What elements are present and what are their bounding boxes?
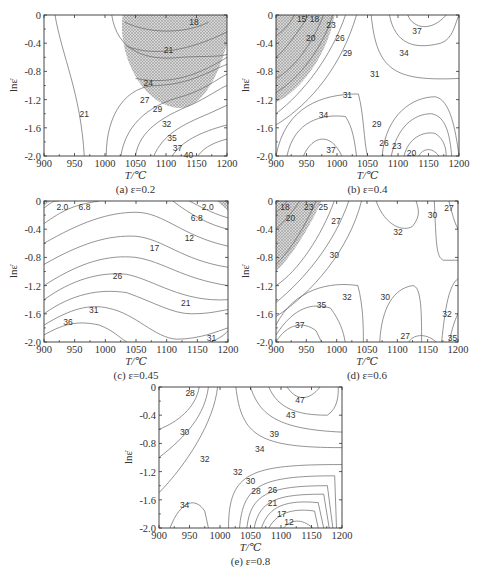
x-axis-label: T/℃ (357, 169, 379, 181)
contour-label: 25 (319, 202, 329, 212)
y-tick-label: -1.2 (139, 467, 156, 478)
y-tick-label: -0.4 (256, 38, 273, 49)
x-tick-label: 1100 (387, 344, 408, 355)
contour-line (303, 139, 341, 156)
x-axis-label: T/℃ (125, 169, 147, 181)
contour-label: 32 (162, 119, 172, 129)
contour-label: 30 (330, 250, 340, 260)
panel-c: 2.02.06.86.81217262131363190095010001050… (7, 196, 239, 382)
contour-line (276, 306, 345, 342)
y-tick-label: -1.6 (24, 123, 41, 134)
y-tick-label: -2.0 (24, 151, 41, 162)
contour-label: 21 (164, 45, 174, 55)
contour-label: 31 (89, 305, 99, 315)
contour-label: 26 (113, 271, 123, 281)
contour-label: 30 (246, 476, 256, 486)
contour-label: 37 (412, 26, 422, 36)
contour-label: 12 (185, 233, 195, 243)
x-tick-label: 950 (67, 158, 83, 169)
contour-label: 47 (295, 395, 305, 405)
contour-label: 35 (448, 333, 458, 343)
x-tick-label: 1000 (210, 530, 231, 541)
x-tick-label: 1200 (448, 344, 469, 355)
panel-caption: (e) ε=0.8 (231, 555, 271, 568)
contour-label: 20 (407, 148, 417, 158)
x-tick-label: 1150 (418, 158, 439, 169)
y-tick-label: -1.2 (256, 95, 273, 106)
x-tick-label: 1000 (95, 158, 116, 169)
y-tick-label: -1.6 (256, 123, 273, 134)
contour-label: 26 (335, 33, 345, 43)
y-tick-label: 0 (268, 10, 273, 21)
x-tick-label: 1200 (449, 158, 470, 169)
contour-label: 31 (207, 333, 217, 343)
x-tick-label: 1050 (126, 344, 147, 355)
y-tick-label: -1.6 (24, 309, 41, 320)
contour-label: 37 (326, 145, 336, 155)
x-tick-label: 1200 (332, 530, 353, 541)
contour-label: 32 (442, 309, 452, 319)
y-tick-label: 0 (268, 196, 273, 207)
x-tick-label: 1150 (187, 344, 208, 355)
contour-label: 20 (306, 33, 316, 43)
processing-map-figure: 2118212427293235374090095010001050110011… (0, 0, 478, 574)
contour-label: 15 (297, 14, 307, 24)
y-axis-label: lnε̇ (122, 450, 134, 464)
contour-label: 27 (331, 216, 341, 226)
y-axis-label: lnε̇ (239, 264, 251, 278)
y-tick-label: -1.2 (256, 281, 273, 292)
contour-label: 32 (393, 227, 403, 237)
contour-line (159, 387, 218, 493)
contour-label: 34 (399, 48, 409, 58)
x-tick-label: 1200 (217, 158, 238, 169)
y-tick-label: -0.8 (24, 66, 41, 77)
contour-line (44, 323, 127, 342)
contour-label: 36 (63, 317, 73, 327)
contour-label: 21 (268, 498, 278, 508)
contour-label: 2.0 (56, 202, 68, 212)
x-tick-label: 950 (67, 344, 83, 355)
panel-caption: (d) ε=0.6 (347, 369, 388, 382)
y-tick-label: -2.0 (256, 337, 273, 348)
contour-label: 29 (153, 104, 163, 114)
contour-label: 20 (286, 213, 296, 223)
contour-label: 27 (444, 203, 454, 213)
y-tick-label: -1.6 (139, 495, 156, 506)
y-tick-label: -1.6 (256, 309, 273, 320)
contour-label: 30 (380, 292, 390, 302)
contour-label: 21 (80, 109, 90, 119)
contour-label: 21 (181, 298, 191, 308)
x-axis-label: T/℃ (240, 541, 262, 553)
y-axis-label: lnε̇ (239, 78, 251, 92)
contour-label: 34 (255, 444, 265, 454)
x-tick-label: 1050 (357, 158, 378, 169)
contour-line (376, 201, 418, 228)
y-tick-label: -2.0 (256, 151, 273, 162)
x-tick-label: 1150 (301, 530, 322, 541)
y-tick-label: -0.4 (24, 224, 41, 235)
y-tick-label: 0 (36, 196, 41, 207)
x-tick-label: 1100 (156, 158, 177, 169)
contour-label: 26 (268, 485, 278, 495)
panel-caption: (c) ε=0.45 (113, 369, 159, 382)
y-tick-label: 0 (36, 10, 41, 21)
y-tick-label: -0.4 (256, 224, 273, 235)
x-tick-label: 1050 (357, 344, 378, 355)
y-tick-label: -0.8 (139, 438, 156, 449)
contour-line (55, 15, 84, 156)
x-tick-label: 1200 (218, 344, 239, 355)
contour-label: 18 (280, 202, 290, 212)
contour-line (44, 201, 99, 224)
y-tick-label: -2.0 (24, 337, 41, 348)
y-tick-label: -0.8 (256, 252, 273, 263)
x-tick-label: 1100 (271, 530, 292, 541)
contour-label: 2.0 (202, 202, 214, 212)
contour-line (44, 291, 228, 313)
contour-line (287, 116, 357, 156)
contour-label: 35 (167, 133, 177, 143)
x-tick-label: 1100 (156, 344, 177, 355)
x-tick-label: 1000 (327, 158, 348, 169)
x-tick-label: 1000 (326, 344, 347, 355)
contour-label: 31 (343, 90, 353, 100)
x-tick-label: 950 (299, 158, 315, 169)
